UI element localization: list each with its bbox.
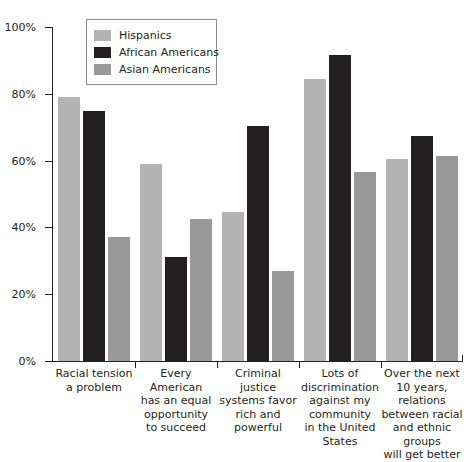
x-axis-category-line: rich and [217,408,299,422]
y-axis-tick-mark [45,294,52,295]
legend: Hispanics African Americans Asian Americ… [86,19,217,85]
x-axis-category-line: 10 years, [381,381,463,395]
x-axis-category-line: Criminal [217,367,299,381]
x-axis-category-line: and ethnic [381,421,463,435]
bar[interactable] [165,257,187,361]
x-axis-category-label: Lots ofdiscriminationagainst mycommunity… [299,367,381,448]
y-axis-tick-label: 0% [19,356,36,367]
y-axis-tick-label: 100% [5,22,36,33]
x-axis-category-label: Over the next10 years,relationsbetween r… [381,367,463,462]
x-axis-category-line: to succeed [135,421,217,435]
legend-swatch-hispanics [94,30,111,41]
x-axis-category-line: will get better [381,448,463,462]
y-axis-tick-label: 60% [12,155,36,166]
y-axis: 0%20%40%60%80%100% [0,0,44,452]
legend-label-african-americans: African Americans [119,47,219,58]
legend-item[interactable]: Asian Americans [94,61,208,77]
bar[interactable] [222,212,244,361]
bar[interactable] [329,55,351,361]
y-axis-tick-mark [45,227,52,228]
x-axis-category-line: justice [217,381,299,395]
y-axis-tick-mark [45,161,52,162]
y-axis-tick-mark [45,361,52,362]
bar[interactable] [190,219,212,361]
x-axis-category-line: groups [381,435,463,449]
x-axis-category-line: relations [381,394,463,408]
x-axis-category-line: has an equal [135,394,217,408]
x-axis-category-line: Over the next [381,367,463,381]
legend-swatch-asian-americans [94,64,111,75]
legend-item[interactable]: African Americans [94,44,208,60]
legend-swatch-african-americans [94,47,111,58]
x-axis-category-labels: Racial tensiona problemEvery Americanhas… [53,367,463,452]
bar-group [299,27,381,361]
y-axis-tick-label: 20% [12,289,36,300]
x-axis-category-line: a problem [53,381,135,395]
bar[interactable] [411,136,433,361]
legend-label-asian-americans: Asian Americans [119,64,211,75]
bar[interactable] [304,79,326,361]
bar[interactable] [140,164,162,361]
y-axis-tick-mark [45,27,52,28]
x-axis-category-label: Racial tensiona problem [53,367,135,394]
x-axis-category-line: community [299,408,381,422]
legend-label-hispanics: Hispanics [119,30,172,41]
y-axis-tick-mark [45,94,52,95]
x-axis-category-line: Racial tension [53,367,135,381]
x-axis-category-line: Every American [135,367,217,394]
bar[interactable] [354,172,376,361]
x-axis-category-line: powerful [217,421,299,435]
x-axis-line [52,361,463,362]
bar-group [381,27,463,361]
bar[interactable] [247,126,269,361]
y-axis-tick-label: 80% [12,88,36,99]
x-axis-category-line: against my [299,394,381,408]
bar[interactable] [436,156,458,361]
y-axis-tick-label: 40% [12,222,36,233]
bar[interactable] [83,111,105,362]
bar[interactable] [58,97,80,361]
bar[interactable] [272,271,294,361]
legend-item[interactable]: Hispanics [94,27,208,43]
x-axis-category-label: Criminaljusticesystems favorrich andpowe… [217,367,299,435]
bar-group [217,27,299,361]
x-axis-category-line: in the United [299,421,381,435]
bar[interactable] [108,237,130,361]
x-axis-category-line: States [299,435,381,449]
x-axis-category-line: Lots of [299,367,381,381]
x-axis-category-line: discrimination [299,381,381,395]
x-axis-category-label: Every Americanhas an equalopportunityto … [135,367,217,435]
x-axis-category-line: between racial [381,408,463,422]
x-axis-category-line: systems favor [217,394,299,408]
bar[interactable] [386,159,408,361]
x-axis-category-line: opportunity [135,408,217,422]
